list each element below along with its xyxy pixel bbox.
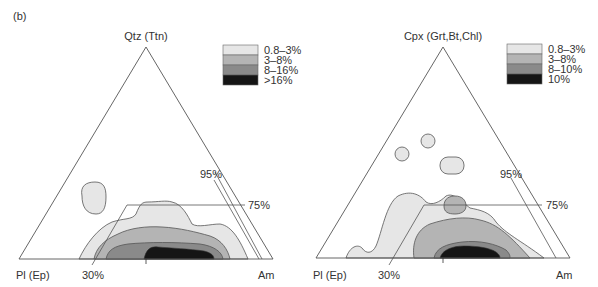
legend-label-4: 10% [548,73,570,85]
legend-swatch-3 [223,65,258,75]
apex-label: Cpx (Grt,Bt,Chl) [404,30,482,42]
legend-swatch-2 [223,55,258,65]
contour-level1-patch-b [421,134,435,148]
right-vertex-label: Am [556,269,573,281]
legend-swatch-4 [223,75,258,85]
legend-swatch-4 [507,74,542,84]
legend-left: 0.8–3% 3–8% 8–16% >16% [223,44,302,86]
left-vertex-label: Pl (Ep) [16,269,50,281]
legend-swatch-1 [507,44,542,54]
ref-label-75: 75% [248,199,270,211]
ternary-figure: Qtz (Ttn) Pl (Ep) Am 95% 75% 30% 0.8–3% … [0,0,598,287]
legend-swatch-3 [507,64,542,74]
contour-level1-patch-a [395,147,409,161]
ref-label-95: 95% [200,168,222,180]
contour-level1-patch [82,182,106,214]
ref-label-30: 30% [82,269,104,281]
contour-level1-patch-c [440,157,464,174]
ternary-left: Qtz (Ttn) Pl (Ep) Am 95% 75% 30% 0.8–3% … [16,30,302,281]
left-vertex-label: Pl (Ep) [313,269,347,281]
legend-right: 0.8–3% 3–8% 8–10% 10% [507,43,586,85]
legend-swatch-2 [507,54,542,64]
legend-label-4: >16% [264,74,293,86]
right-vertex-label: Am [258,269,275,281]
ref-label-30: 30% [378,269,400,281]
apex-label: Qtz (Ttn) [124,30,167,42]
ref-label-95: 95% [500,168,522,180]
ref-label-75: 75% [546,199,568,211]
legend-swatch-1 [223,45,258,55]
ternary-right: Cpx (Grt,Bt,Chl) Pl (Ep) Am 95% 75% 30% … [313,30,586,281]
